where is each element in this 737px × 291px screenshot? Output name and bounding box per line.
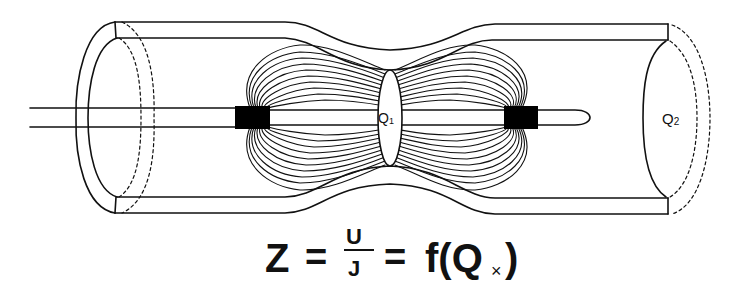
left-cap-inner [88,38,117,197]
formula-close: ) [505,236,518,280]
right-electrode-tip [538,110,590,125]
tube-inner-bottom [117,166,668,198]
left-cap-outer [76,22,115,213]
tube-outer-top [115,22,668,50]
formula-eq2: = [384,236,406,278]
left-hidden-ellipse-inner [119,38,141,197]
formula-func: f(Q [425,236,483,280]
formula-eq1: = [305,236,327,278]
impedance-formula: Z = U J = f(Q × ) [0,224,737,291]
formula-subscript: × [491,261,502,281]
left-cap-edge-bottom [115,197,116,213]
left-hidden-ellipse-outer [122,22,154,213]
tube-outer-bottom [115,184,668,214]
formula-numerator: U [346,224,362,249]
left-electrode [235,106,270,129]
formula-lhs: Z [265,236,289,280]
right-electrode [504,106,538,129]
left-cap-edge-top [115,22,116,38]
tube-inner-top [117,38,668,70]
formula-denominator: J [348,256,360,281]
q2-label: Q2 [662,110,680,127]
